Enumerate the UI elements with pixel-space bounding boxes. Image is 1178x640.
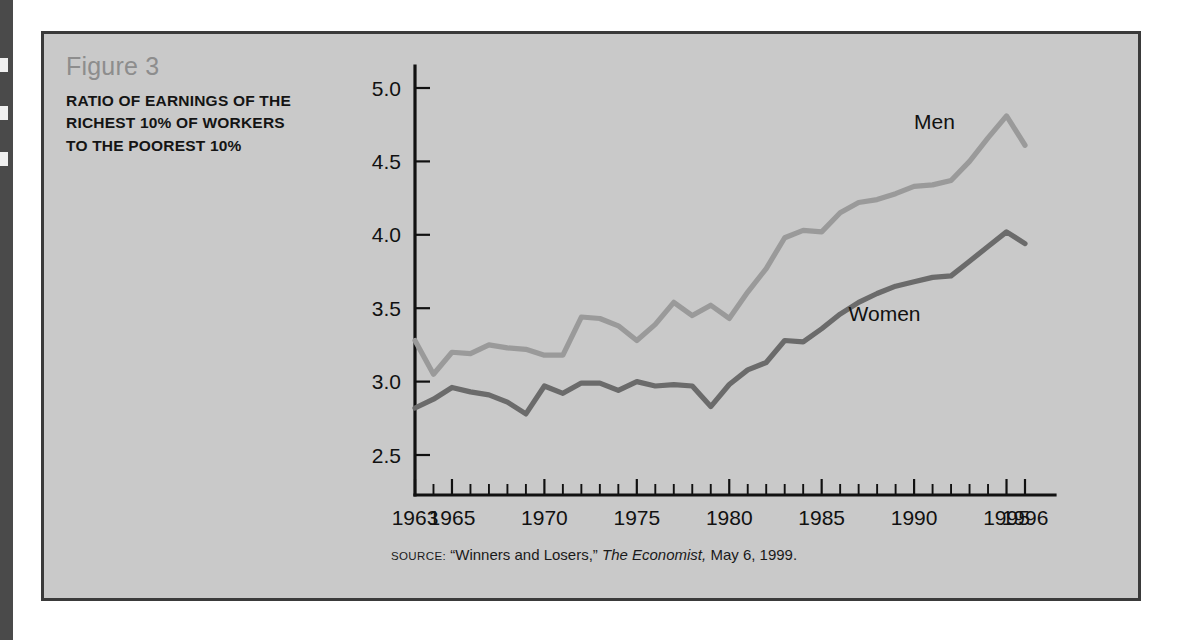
page-scan-gutter xyxy=(0,0,13,640)
y-axis-tick-labels: 2.53.03.54.04.55.0 xyxy=(372,77,401,467)
y-tick-label: 3.0 xyxy=(372,370,401,393)
y-tick-label: 2.5 xyxy=(372,444,401,467)
x-tick-label: 1996 xyxy=(1002,506,1049,529)
x-axis-tick-labels: 196319651970197519801985199019951996 xyxy=(392,506,1049,529)
source-article-title: “Winners and Losers,” xyxy=(450,546,598,563)
series-line-women xyxy=(415,232,1025,414)
source-date: May 6, 1999. xyxy=(710,546,797,563)
x-axis-ticks xyxy=(415,479,1025,495)
y-tick-label: 5.0 xyxy=(372,77,401,100)
y-tick-label: 4.5 xyxy=(372,150,401,173)
source-prefix: SOURCE: xyxy=(391,550,446,562)
x-tick-label: 1965 xyxy=(429,506,476,529)
chart-plot-area: 2.53.03.54.04.55.0 196319651970197519801… xyxy=(44,34,1144,604)
series-label-women: Women xyxy=(849,302,921,325)
x-tick-label: 1985 xyxy=(798,506,845,529)
y-tick-label: 4.0 xyxy=(372,223,401,246)
figure-panel: Figure 3 RATIO OF EARNINGS OF THE RICHES… xyxy=(41,31,1141,601)
gutter-notch xyxy=(0,58,8,72)
source-publication: The Economist, xyxy=(602,546,706,563)
source-note: SOURCE: “Winners and Losers,” The Econom… xyxy=(44,546,1144,563)
series-label-men: Men xyxy=(914,110,955,133)
gutter-notch xyxy=(0,152,8,166)
x-tick-label: 1970 xyxy=(521,506,568,529)
y-tick-label: 3.5 xyxy=(372,297,401,320)
chart-series-lines xyxy=(415,116,1025,414)
x-tick-label: 1980 xyxy=(706,506,753,529)
series-line-men xyxy=(415,116,1025,374)
gutter-notch xyxy=(0,106,8,120)
chart-series-labels: MenWomen xyxy=(849,110,955,325)
x-tick-label: 1975 xyxy=(613,506,660,529)
line-chart: 2.53.03.54.04.55.0 196319651970197519801… xyxy=(44,34,1144,604)
x-tick-label: 1990 xyxy=(891,506,938,529)
